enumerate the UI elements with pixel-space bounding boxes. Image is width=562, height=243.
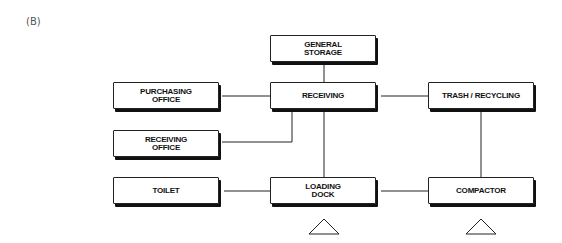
node-label: GENERAL STORAGE <box>304 41 342 57</box>
node-toilet: TOILET <box>113 177 219 204</box>
node-general-storage: GENERAL STORAGE <box>270 35 376 62</box>
node-label: COMPACTOR <box>456 187 506 195</box>
node-label: LOADING DOCK <box>305 183 341 199</box>
node-label: RECEIVING <box>302 92 344 100</box>
node-loading-dock: LOADING DOCK <box>270 177 376 204</box>
node-receiving-office: RECEIVING OFFICE <box>113 130 219 157</box>
node-receiving: RECEIVING <box>270 82 376 109</box>
triangle-marker-icon <box>466 219 496 234</box>
edge-receiving-receiving-office <box>222 111 292 142</box>
node-label: TOILET <box>152 187 179 195</box>
triangle-marker-icon <box>309 219 339 234</box>
node-label: TRASH / RECYCLING <box>442 92 520 100</box>
node-purchasing-office: PURCHASING OFFICE <box>113 82 219 109</box>
node-label: RECEIVING OFFICE <box>145 136 187 152</box>
node-compactor: COMPACTOR <box>428 177 534 204</box>
node-trash-recycling: TRASH / RECYCLING <box>428 82 534 109</box>
node-label: PURCHASING OFFICE <box>140 88 192 104</box>
